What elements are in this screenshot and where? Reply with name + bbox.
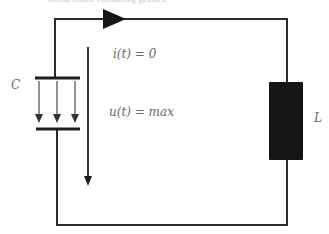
current-direction-arrow-icon (103, 9, 126, 29)
voltage-arrow-icon (84, 47, 92, 186)
capacitor-label: C (11, 79, 20, 91)
inductor-label: L (314, 112, 322, 124)
inductor (269, 82, 303, 160)
lc-circuit-diagram: Kondensator vollständig geladen (0, 0, 329, 234)
electric-field-arrows-icon (35, 81, 79, 123)
circuit-wires (55, 19, 287, 225)
current-label: i(t) = 0 (113, 48, 156, 60)
voltage-label: u(t) = max (109, 106, 174, 118)
